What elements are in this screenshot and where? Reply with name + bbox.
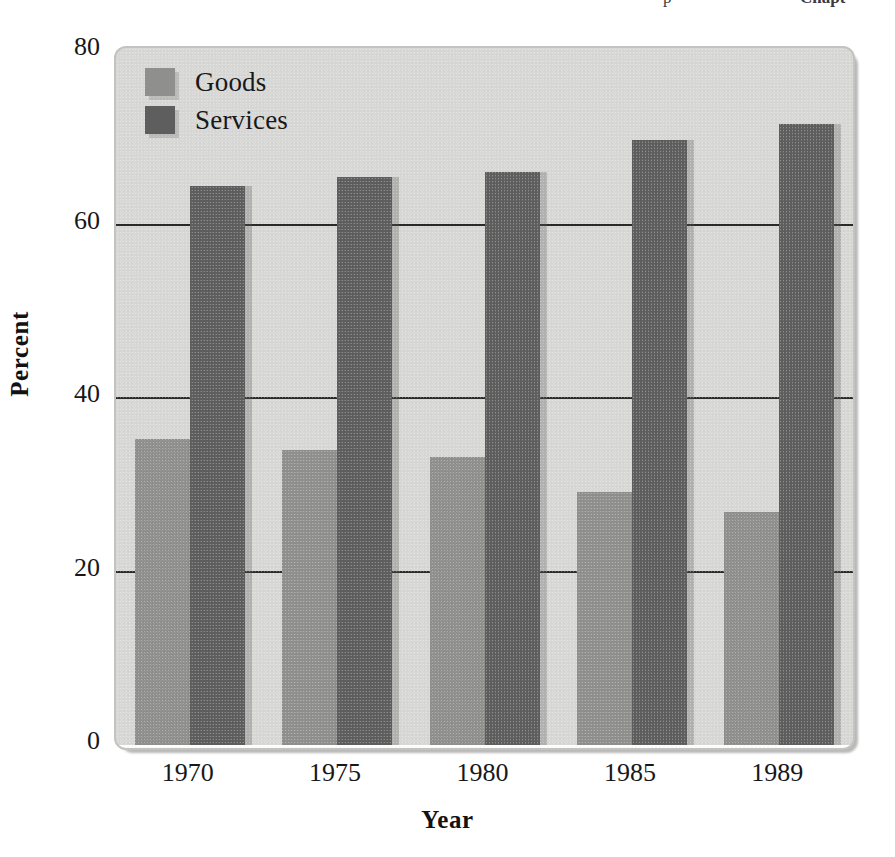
y-tick-0: 0 [0, 726, 100, 756]
legend-item-goods: Goods [145, 63, 288, 101]
bar-goods-1970[interactable] [135, 439, 190, 745]
bar-goods-1975[interactable] [282, 450, 337, 745]
bar-goods-1980[interactable] [430, 457, 485, 745]
y-axis-title: Percent [6, 274, 34, 434]
x-tick-1980: 1980 [413, 758, 553, 788]
plot-panel [114, 46, 855, 750]
bar-goods-1989[interactable] [724, 512, 779, 745]
bar-services-1975[interactable] [337, 177, 392, 745]
x-tick-1975: 1975 [265, 758, 405, 788]
plot-area [116, 48, 853, 748]
bar-services-1989[interactable] [779, 124, 834, 745]
legend-label-goods: Goods [195, 67, 267, 98]
x-tick-1970: 1970 [118, 758, 258, 788]
legend-item-services: Services [145, 101, 288, 139]
chart-legend: Goods Services [145, 63, 288, 139]
bar-chart-figure: Goods Services 806040200 197019751980198… [0, 0, 895, 857]
x-axis-title: Year [0, 806, 895, 834]
y-tick-80: 80 [0, 32, 100, 62]
x-tick-1985: 1985 [560, 758, 700, 788]
bar-services-1970[interactable] [190, 186, 245, 745]
y-tick-20: 20 [0, 553, 100, 583]
legend-swatch-goods [145, 68, 175, 96]
axis-baseline [116, 745, 853, 748]
legend-label-services: Services [195, 105, 288, 136]
x-tick-1989: 1989 [707, 758, 847, 788]
bar-services-1980[interactable] [485, 172, 540, 745]
y-tick-60: 60 [0, 206, 100, 236]
bar-services-1985[interactable] [632, 140, 687, 746]
bar-goods-1985[interactable] [577, 492, 632, 745]
legend-swatch-services [145, 106, 175, 134]
